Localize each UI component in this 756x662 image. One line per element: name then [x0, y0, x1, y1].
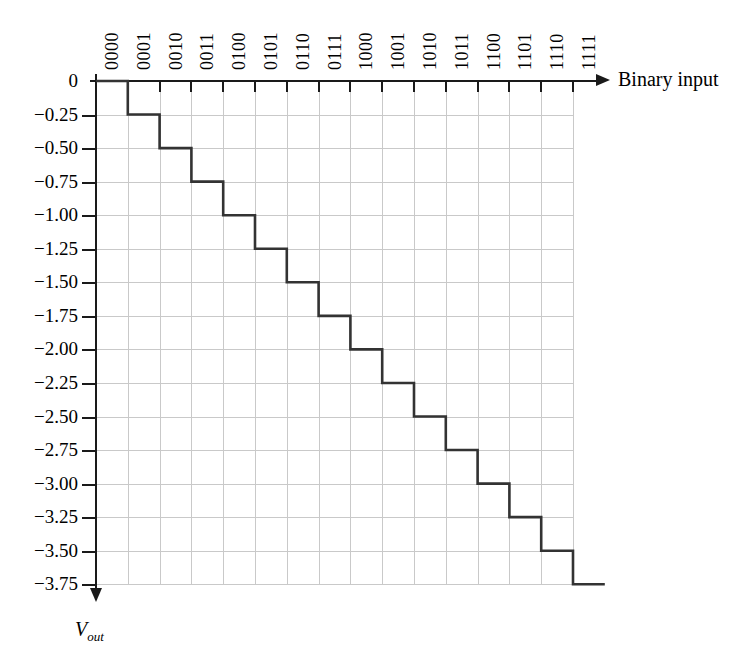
- x-axis-tick: [286, 81, 288, 92]
- gridline-vertical: [573, 81, 574, 584]
- y-axis-tick-label: −0.75: [0, 172, 78, 191]
- y-axis-tick: [82, 249, 96, 251]
- x-axis-tick-label: 0110: [294, 0, 312, 70]
- gridline-vertical: [478, 81, 479, 584]
- y-axis-tick: [82, 115, 96, 117]
- gridline-horizontal: [96, 282, 573, 283]
- x-axis-tick-label: 0011: [198, 0, 216, 70]
- gridline-vertical: [509, 81, 510, 584]
- y-axis-tick-label: −2.25: [0, 373, 78, 392]
- x-axis-line: [90, 80, 598, 82]
- gridline-horizontal: [96, 484, 573, 485]
- y-axis-tick: [82, 215, 96, 217]
- y-axis-tick: [82, 417, 96, 419]
- gridline-vertical: [128, 81, 129, 584]
- x-axis-tick: [445, 81, 447, 92]
- x-axis-tick: [254, 81, 256, 92]
- gridline-vertical: [414, 81, 415, 584]
- x-axis-tick: [318, 81, 320, 92]
- y-axis-tick: [82, 316, 96, 318]
- x-axis-tick-label: 0001: [135, 0, 153, 70]
- gridline-horizontal: [96, 249, 573, 250]
- x-axis-tick: [190, 81, 192, 92]
- x-axis-tick-label: 1100: [485, 0, 503, 70]
- gridline-vertical: [160, 81, 161, 584]
- x-axis-title: Binary input: [618, 68, 719, 91]
- y-axis-tick-label: −2.00: [0, 339, 78, 358]
- gridline-horizontal: [96, 115, 573, 116]
- y-axis-tick: [82, 182, 96, 184]
- y-axis-tick: [82, 450, 96, 452]
- y-axis-tick-label: −3.50: [0, 541, 78, 560]
- x-axis-tick: [222, 81, 224, 92]
- gridline-horizontal: [96, 551, 573, 552]
- gridline-horizontal: [96, 450, 573, 451]
- x-axis-tick: [127, 81, 129, 92]
- gridline-horizontal: [96, 215, 573, 216]
- x-axis-tick-label: 0111: [326, 0, 344, 70]
- y-axis-tick-label: 0: [0, 71, 78, 90]
- gridline-vertical: [446, 81, 447, 584]
- y-axis-tick: [82, 148, 96, 150]
- x-axis-tick-label: 1110: [548, 0, 566, 70]
- gridline-horizontal: [96, 383, 573, 384]
- x-axis-tick-label: 1101: [516, 0, 534, 70]
- x-axis-tick-label: 1000: [357, 0, 375, 70]
- x-axis-tick: [413, 81, 415, 92]
- x-axis-tick: [572, 81, 574, 92]
- gridline-vertical: [255, 81, 256, 584]
- gridline-horizontal: [96, 349, 573, 350]
- x-axis-tick-label: 1111: [580, 0, 598, 70]
- y-axis-arrow-icon: [90, 588, 102, 602]
- y-axis-tick-label: −1.00: [0, 205, 78, 224]
- y-axis-tick-label: −1.75: [0, 306, 78, 325]
- gridline-horizontal: [96, 417, 573, 418]
- y-axis-title: Vout: [75, 618, 104, 645]
- gridline-vertical: [350, 81, 351, 584]
- gridline-vertical: [382, 81, 383, 584]
- y-axis-title-subscript: out: [87, 629, 104, 644]
- y-axis-tick: [82, 517, 96, 519]
- y-axis-tick: [82, 383, 96, 385]
- y-axis-tick-label: −2.75: [0, 440, 78, 459]
- x-axis-tick-label: 0101: [262, 0, 280, 70]
- y-axis-tick-label: −1.50: [0, 272, 78, 291]
- x-axis-tick-label: 1010: [421, 0, 439, 70]
- y-axis-tick-label: −0.50: [0, 138, 78, 157]
- y-axis-tick: [82, 282, 96, 284]
- gridline-vertical: [541, 81, 542, 584]
- gridline-vertical: [223, 81, 224, 584]
- gridline-horizontal: [96, 584, 573, 585]
- x-axis-arrow-icon: [596, 74, 610, 86]
- y-axis-tick-label: −1.25: [0, 239, 78, 258]
- gridline-horizontal: [96, 148, 573, 149]
- gridline-horizontal: [96, 316, 573, 317]
- gridline-horizontal: [96, 182, 573, 183]
- gridline-vertical: [319, 81, 320, 584]
- x-axis-tick: [349, 81, 351, 92]
- y-axis-tick-label: −3.00: [0, 474, 78, 493]
- y-axis-tick: [82, 551, 96, 553]
- y-axis-tick: [82, 349, 96, 351]
- y-axis-line: [95, 74, 97, 593]
- x-axis-tick: [95, 81, 97, 92]
- dac-transfer-characteristic-figure: 0−0.25−0.50−0.75−1.00−1.25−1.50−1.75−2.0…: [0, 0, 756, 662]
- x-axis-tick-label: 0010: [167, 0, 185, 70]
- x-axis-tick-label: 1001: [389, 0, 407, 70]
- y-axis-tick-label: −3.75: [0, 574, 78, 593]
- y-axis-tick-label: −2.50: [0, 407, 78, 426]
- gridline-vertical: [191, 81, 192, 584]
- gridline-horizontal: [96, 517, 573, 518]
- x-axis-tick: [477, 81, 479, 92]
- gridline-vertical: [287, 81, 288, 584]
- y-axis-tick-label: −0.25: [0, 105, 78, 124]
- x-axis-tick-label: 1011: [453, 0, 471, 70]
- x-axis-tick: [159, 81, 161, 92]
- x-axis-tick-label: 0000: [103, 0, 121, 70]
- y-axis-title-main: V: [75, 618, 87, 640]
- y-axis-tick: [82, 484, 96, 486]
- x-axis-tick: [381, 81, 383, 92]
- x-axis-tick-label: 0100: [230, 0, 248, 70]
- x-axis-tick: [508, 81, 510, 92]
- y-axis-tick-label: −3.25: [0, 507, 78, 526]
